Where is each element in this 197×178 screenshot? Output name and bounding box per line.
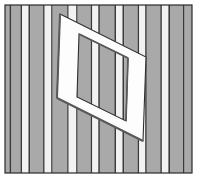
stripe-band: [30, 5, 43, 173]
stripe-band: [170, 5, 183, 173]
stripe-band: [43, 5, 45, 173]
stripe-band: [22, 5, 28, 173]
stripe-band: [160, 5, 162, 173]
stripe-band: [21, 5, 23, 173]
striped-parallelogram-illustration: [0, 0, 197, 178]
stripe-band: [45, 5, 52, 173]
stripe-band: [145, 5, 147, 173]
figure-container: [0, 0, 197, 178]
stripe-band: [183, 5, 185, 173]
stripe-band: [185, 5, 192, 173]
stripe-band: [51, 5, 53, 173]
stripe-band: [168, 5, 170, 173]
stripe-band: [162, 5, 169, 173]
stripe-band: [147, 5, 161, 173]
stripe-band: [10, 5, 12, 173]
stripe-band: [5, 5, 10, 173]
stripe-band: [29, 5, 31, 173]
stripe-band: [12, 5, 21, 173]
